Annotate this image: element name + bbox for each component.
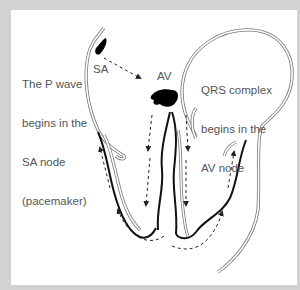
annotation-line: begins in the [22,117,87,130]
annotation-line: QRS complex [201,84,272,97]
av-node-label: AV [157,70,172,83]
p-wave-annotation: The P wave begins in the SA node (pacema… [22,52,87,221]
septum-outline [178,130,188,236]
qrs-annotation: QRS complex begins in the AV node [201,58,272,188]
annotation-line: The P wave [22,78,87,91]
sa-node [95,38,106,55]
left-bundle-arrow-2 [146,158,150,205]
left-bundle-arrow-1 [148,115,152,150]
sa-node-label: SA [93,63,108,76]
annotation-line: AV node [201,162,272,175]
sa-to-av-arrow [104,58,140,78]
annotation-line: (pacemaker) [22,195,87,208]
annotation-line: begins in the [201,123,272,136]
av-node [151,89,178,107]
annotation-line: SA node [22,156,87,169]
